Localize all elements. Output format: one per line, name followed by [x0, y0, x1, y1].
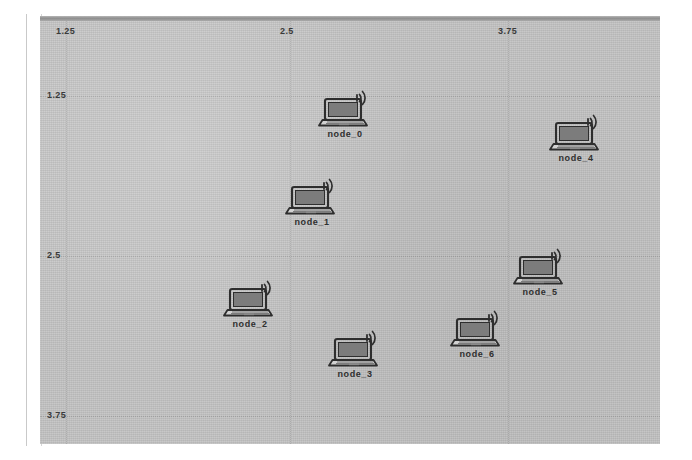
y-gridline — [40, 416, 660, 417]
x-gridline — [290, 16, 291, 444]
y-tick-label: 3.75 — [47, 410, 66, 420]
node-node_2[interactable]: node_2 — [218, 276, 282, 329]
wireless-laptop-icon — [548, 110, 604, 154]
wireless-laptop-icon — [317, 86, 373, 130]
wireless-laptop-icon — [327, 326, 383, 370]
animation-canvas[interactable]: node_0node_1node_2node_3node_4node_5node… — [40, 16, 660, 444]
node-node_3[interactable]: node_3 — [323, 326, 387, 379]
x-tick-label: 1.25 — [56, 26, 75, 36]
node-label: node_5 — [508, 287, 572, 297]
y-tick-label: 2.5 — [47, 250, 61, 260]
node-label: node_6 — [445, 349, 509, 359]
x-gridline — [66, 16, 67, 444]
node-node_0[interactable]: node_0 — [313, 86, 377, 139]
node-label: node_0 — [313, 129, 377, 139]
node-node_4[interactable]: node_4 — [544, 110, 608, 163]
node-label: node_2 — [218, 319, 282, 329]
wireless-laptop-icon — [284, 174, 340, 218]
wireless-laptop-icon — [449, 306, 505, 350]
x-tick-label: 3.75 — [498, 26, 517, 36]
x-tick-label: 2.5 — [280, 26, 294, 36]
canvas-top-frame — [40, 16, 660, 21]
x-gridline — [508, 16, 509, 444]
node-node_6[interactable]: node_6 — [445, 306, 509, 359]
wireless-laptop-icon — [222, 276, 278, 320]
node-label: node_4 — [544, 153, 608, 163]
node-node_1[interactable]: node_1 — [280, 174, 344, 227]
node-label: node_3 — [323, 369, 387, 379]
y-tick-label: 1.25 — [47, 90, 66, 100]
wireless-laptop-icon — [512, 244, 568, 288]
node-label: node_1 — [280, 217, 344, 227]
netanim-screenshot: node_0node_1node_2node_3node_4node_5node… — [0, 0, 692, 460]
node-node_5[interactable]: node_5 — [508, 244, 572, 297]
